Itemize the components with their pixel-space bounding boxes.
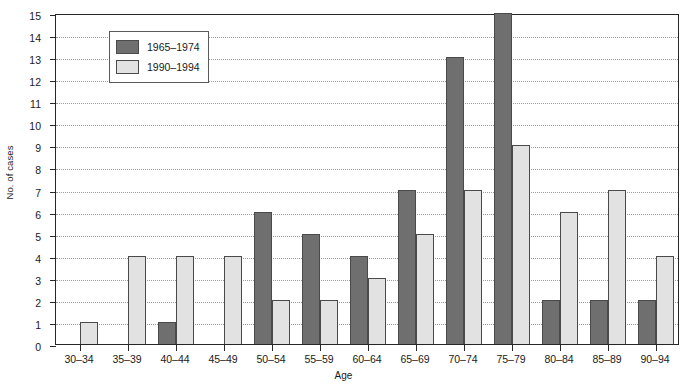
y-axis-tick-label: 11 xyxy=(1,98,41,110)
y-axis-tick-label: 4 xyxy=(1,253,41,265)
x-axis-tick xyxy=(368,344,369,351)
y-axis-tick-label: 2 xyxy=(1,297,41,309)
x-axis-tick xyxy=(176,344,177,351)
bar xyxy=(176,256,194,344)
bar xyxy=(302,234,320,344)
legend-item: 1990–1994 xyxy=(116,57,200,77)
y-axis-tick-label: 6 xyxy=(1,209,41,221)
x-axis-tick xyxy=(224,344,225,351)
bar xyxy=(512,145,530,344)
x-axis-tick xyxy=(464,344,465,351)
bar xyxy=(608,190,626,344)
y-axis-tick-label: 9 xyxy=(1,142,41,154)
legend-item-label: 1965–1974 xyxy=(147,41,200,53)
bar xyxy=(224,256,242,344)
bar xyxy=(494,13,512,344)
x-axis-tick xyxy=(560,344,561,351)
y-axis-tick: 0 xyxy=(50,346,56,347)
bar xyxy=(272,300,290,344)
y-axis-tick-label: 3 xyxy=(1,275,41,287)
x-axis-tick xyxy=(128,344,129,351)
bar xyxy=(638,300,656,344)
bar xyxy=(320,300,338,344)
y-axis-tick-label: 7 xyxy=(1,187,41,199)
legend-swatch-icon xyxy=(116,60,139,74)
x-axis-title-label: Age xyxy=(335,370,353,381)
y-axis-tick-label: 14 xyxy=(1,32,41,44)
legend-swatch-icon xyxy=(116,40,139,54)
y-axis-tick-label: 10 xyxy=(1,120,41,132)
x-axis-tick-label: 35–39 xyxy=(112,353,141,365)
x-axis-tick xyxy=(320,344,321,351)
x-axis-title: Age xyxy=(0,370,687,381)
bar xyxy=(350,256,368,344)
x-axis-tick-label: 60–64 xyxy=(352,353,381,365)
bar xyxy=(128,256,146,344)
x-axis-tick-label: 90–94 xyxy=(640,353,669,365)
x-axis-tick-label: 85–89 xyxy=(592,353,621,365)
legend-item-label: 1990–1994 xyxy=(147,61,200,73)
bar xyxy=(464,190,482,344)
bar xyxy=(560,212,578,344)
x-axis-tick xyxy=(80,344,81,351)
y-axis-tick-label: 0 xyxy=(1,341,41,353)
bar xyxy=(446,57,464,344)
y-axis-tick-label: 1 xyxy=(1,319,41,331)
x-axis-tick-label: 70–74 xyxy=(448,353,477,365)
bar xyxy=(80,322,98,344)
x-axis-tick xyxy=(656,344,657,351)
bar xyxy=(416,234,434,344)
x-axis-tick-label: 65–69 xyxy=(400,353,429,365)
bar xyxy=(254,212,272,344)
x-axis-tick-label: 45–49 xyxy=(208,353,237,365)
x-axis-tick-label: 75–79 xyxy=(496,353,525,365)
bar xyxy=(542,300,560,344)
x-axis-tick xyxy=(272,344,273,351)
x-axis-tick xyxy=(608,344,609,351)
bar xyxy=(656,256,674,344)
y-axis-tick-label: 8 xyxy=(1,164,41,176)
x-axis-tick xyxy=(416,344,417,351)
bar xyxy=(368,278,386,344)
bar xyxy=(590,300,608,344)
x-axis-tick-label: 55–59 xyxy=(304,353,333,365)
y-axis-tick-label: 5 xyxy=(1,231,41,243)
x-axis-tick xyxy=(512,344,513,351)
y-axis-tick-label: 15 xyxy=(1,10,41,22)
bar xyxy=(398,190,416,344)
x-axis-tick-label: 80–84 xyxy=(544,353,573,365)
bar-chart: No. of cases 0123456789101112131415 30–3… xyxy=(0,0,687,387)
chart-legend: 1965–19741990–1994 xyxy=(109,31,209,83)
legend-item: 1965–1974 xyxy=(116,37,200,57)
y-axis-tick-label: 12 xyxy=(1,76,41,88)
y-axis-tick-label: 13 xyxy=(1,54,41,66)
bar xyxy=(158,322,176,344)
x-axis-tick-label: 50–54 xyxy=(256,353,285,365)
x-axis-tick-label: 30–34 xyxy=(64,353,93,365)
x-axis-tick-label: 40–44 xyxy=(160,353,189,365)
